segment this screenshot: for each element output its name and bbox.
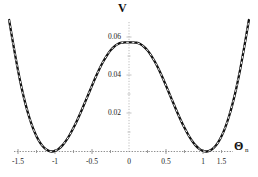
xtick-label: 0 — [127, 158, 131, 166]
y-axis-title: V — [118, 2, 127, 14]
xtick-label: -1 — [52, 158, 58, 166]
x-axis-title: Θ — [234, 140, 243, 152]
xtick-label: -0.5 — [86, 158, 98, 166]
xtick-label: -1.5 — [12, 158, 24, 166]
xtick-label: 0.5 — [161, 158, 170, 166]
xtick-label: 1.5 — [217, 158, 226, 166]
x-axis-title-subscript: n — [245, 147, 249, 154]
xtick-label: 1 — [201, 158, 205, 166]
ytick-label: 0.06 — [99, 33, 121, 41]
potential-energy-plot: V Θ n -1.5 -1 -0.5 0 0.5 1 1.5 0.02 0.04… — [0, 0, 258, 177]
plot-canvas — [0, 0, 258, 177]
ytick-label: 0.02 — [99, 109, 121, 117]
ytick-label: 0.04 — [99, 71, 121, 79]
